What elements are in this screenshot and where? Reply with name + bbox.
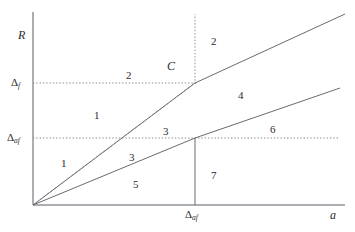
region-2-upper-right-label: 2: [211, 36, 217, 47]
x-tick-delta-af: Δaf: [185, 209, 198, 222]
region-6-label: 6: [270, 124, 276, 135]
region-2-upper-mid-label: 2: [126, 70, 132, 81]
region-1-lower-label: 1: [61, 158, 67, 169]
y-axis-label: R: [18, 29, 25, 41]
x-tick-delta-af-subscript: af: [192, 213, 198, 222]
y-tick-delta-f-subscript: f: [18, 81, 20, 90]
x-axis-label: a: [330, 209, 336, 221]
region-1-upper-label: 1: [94, 110, 100, 121]
diagram-figure: R a Δf Δaf Δaf C 2 2 1 4 3 6 1 3 7 5: [0, 0, 355, 232]
point-c-label: C: [167, 60, 175, 72]
diagram-canvas: [0, 0, 355, 232]
region-7-label: 7: [211, 170, 217, 181]
shallow-solid-boundary-line: [33, 88, 340, 205]
steep-solid-boundary-line: [33, 14, 345, 205]
region-5-label: 5: [133, 179, 139, 190]
y-tick-delta-af: Δaf: [7, 132, 20, 145]
region-4-label: 4: [238, 90, 244, 101]
region-3-lower-label: 3: [129, 152, 135, 163]
region-3-upper-label: 3: [163, 126, 169, 137]
y-tick-delta-f: Δf: [11, 77, 20, 90]
y-tick-delta-af-subscript: af: [14, 136, 20, 145]
